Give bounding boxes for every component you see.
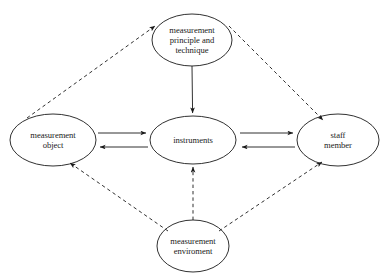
edge-principle-to-staff xyxy=(229,26,323,120)
edge-object-to-principle xyxy=(27,26,155,118)
diagram-graphics xyxy=(0,0,384,277)
node-staff-shape[interactable] xyxy=(297,114,379,166)
edge-environment-to-object xyxy=(70,163,168,231)
node-environment-shape[interactable] xyxy=(157,220,229,272)
node-object-shape[interactable] xyxy=(10,114,96,166)
node-principle-shape[interactable] xyxy=(152,14,232,66)
edge-environment-to-staff xyxy=(219,162,322,231)
diagram-canvas: measurement principle and technique meas… xyxy=(0,0,384,277)
edge-principle-to-instruments xyxy=(192,66,193,113)
node-instruments-shape[interactable] xyxy=(150,116,236,164)
